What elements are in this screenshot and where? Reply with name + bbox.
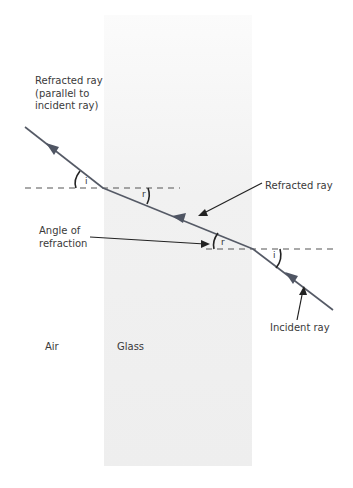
pointer-refracted-ray-head-icon xyxy=(198,209,208,216)
label-glass: Glass xyxy=(117,341,144,354)
angle-label-r-exit: r xyxy=(142,189,146,199)
pointer-angle-of-refraction xyxy=(90,237,205,244)
angle-label-r-entry: r xyxy=(221,237,225,247)
angle-arc-i-entry xyxy=(276,249,281,268)
pointer-angle-of-refraction-head-icon xyxy=(201,240,210,248)
pointer-refracted-ray xyxy=(202,183,262,214)
angle-arc-r-entry xyxy=(214,233,219,249)
arrow-head-emergent-icon xyxy=(46,143,59,155)
angle-arc-r-exit xyxy=(147,188,149,204)
emergent-ray xyxy=(25,127,103,188)
label-refracted-ray: Refracted ray xyxy=(265,180,333,193)
label-incident-ray: Incident ray xyxy=(270,322,330,335)
angle-arc-i-exit xyxy=(75,171,80,188)
angle-label-i-exit: i xyxy=(85,176,88,186)
angle-label-i-entry: i xyxy=(273,250,276,260)
label-air: Air xyxy=(45,341,59,354)
label-refracted-ray-parallel: Refracted ray (parallel to incident ray) xyxy=(35,75,103,113)
label-angle-of-refraction: Angle of refraction xyxy=(39,225,87,250)
